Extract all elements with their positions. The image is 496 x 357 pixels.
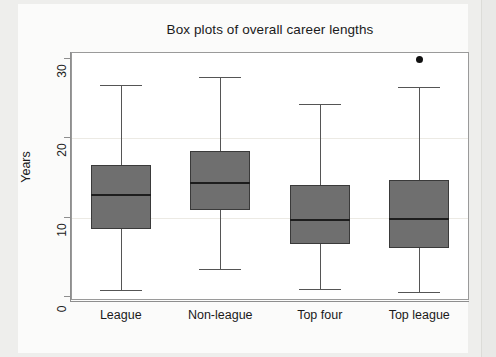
x-tick-label-top-four: Top four [265, 308, 375, 322]
median-line [91, 194, 151, 196]
y-tick-label-30: 30 [55, 58, 69, 84]
whisker-upper-stem [419, 87, 420, 180]
median-line [389, 218, 449, 220]
median-line [190, 182, 250, 184]
box-iqr-rect [389, 180, 449, 247]
whisker-lower-cap [299, 289, 341, 290]
y-axis-title: Years [19, 137, 33, 197]
whisker-lower-stem [320, 244, 321, 289]
page-right-edge [481, 0, 496, 357]
whisker-upper-stem [121, 85, 122, 165]
y-tick-label-wrap-0: 0 [36, 289, 62, 303]
whisker-upper-cap [199, 77, 241, 78]
x-tick-label-league: League [66, 308, 176, 322]
outlier-point[interactable] [416, 56, 423, 63]
median-line [290, 219, 350, 221]
whisker-lower-cap [199, 269, 241, 270]
y-tick-label-wrap-10: 10 [36, 210, 62, 224]
whisker-upper-cap [100, 85, 142, 86]
chart-title: Box plots of overall career lengths [60, 22, 480, 37]
box-iqr-rect [91, 165, 151, 229]
y-axis-line [70, 52, 71, 301]
x-axis-line [70, 301, 469, 302]
whisker-upper-cap [299, 104, 341, 105]
x-tick-label-non-league: Non-league [165, 308, 275, 322]
gridline-20 [72, 138, 468, 139]
box-iqr-rect [290, 185, 350, 244]
y-tick-label-wrap-30: 30 [36, 51, 62, 65]
x-tick-label-top-league: Top league [364, 308, 474, 322]
whisker-lower-stem [419, 248, 420, 292]
whisker-upper-stem [220, 77, 221, 151]
whisker-lower-cap [398, 292, 440, 293]
y-tick-label-wrap-20: 20 [36, 130, 62, 144]
whisker-lower-stem [220, 210, 221, 269]
figure-canvas: Box plots of overall career lengths Year… [0, 0, 496, 357]
whisker-lower-cap [100, 290, 142, 291]
y-tick-label-20: 20 [55, 137, 69, 163]
whisker-lower-stem [121, 229, 122, 289]
y-tick-label-10: 10 [55, 217, 69, 243]
whisker-upper-stem [320, 104, 321, 185]
whisker-upper-cap [398, 87, 440, 88]
